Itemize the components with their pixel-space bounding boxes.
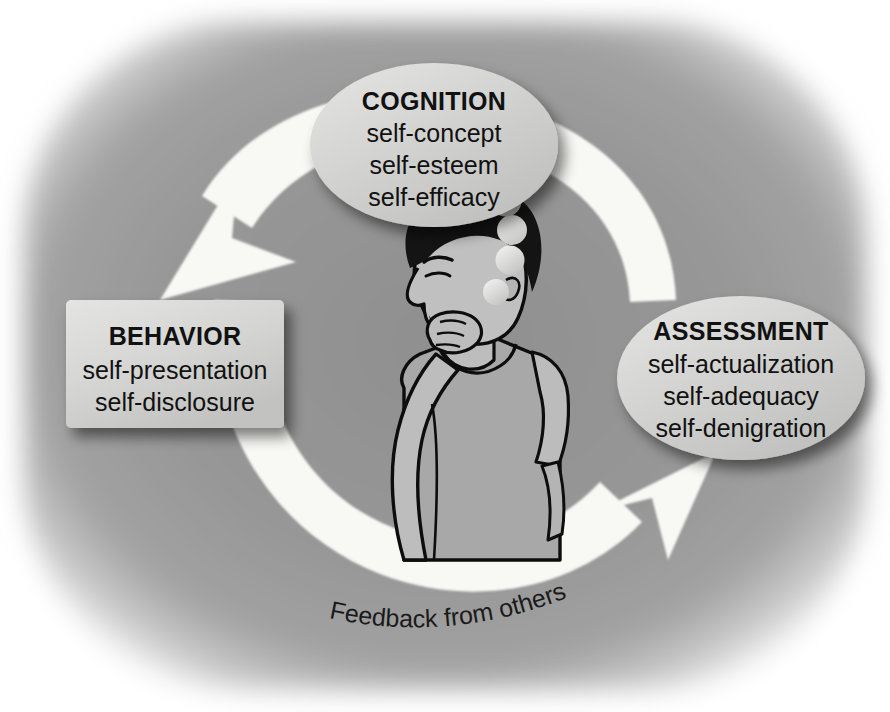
diagram-canvas: COGNITION self-concept self-esteem self-… <box>0 0 890 712</box>
diagram-svg: COGNITION self-concept self-esteem self-… <box>0 0 890 712</box>
thought-bubble-4 <box>483 279 509 305</box>
node-behavior[interactable] <box>66 300 284 428</box>
thought-bubble-3 <box>496 246 525 275</box>
thought-bubble-2 <box>497 215 527 245</box>
node-assessment[interactable] <box>617 296 865 460</box>
node-cognition[interactable] <box>310 63 558 227</box>
